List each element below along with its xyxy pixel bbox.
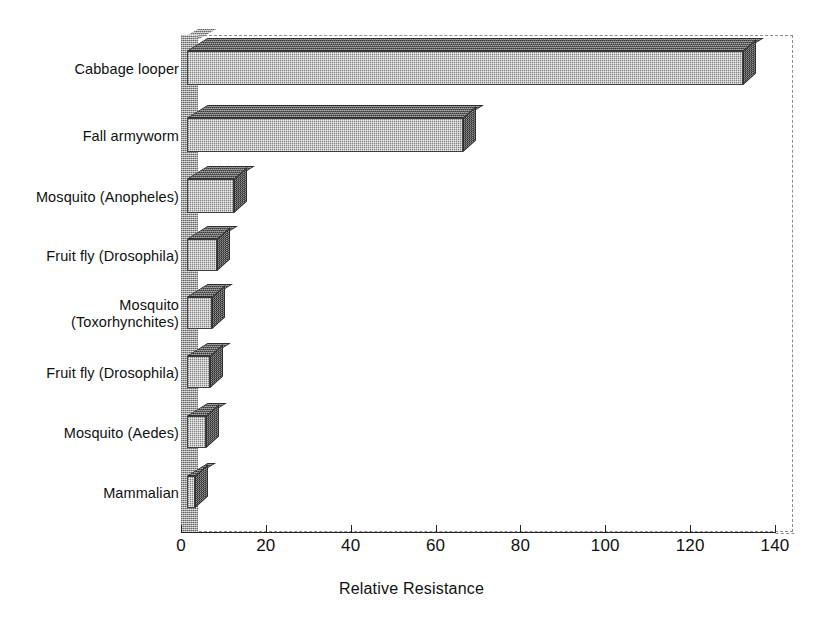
bar-7 <box>187 416 206 448</box>
x-tick-label-40: 40 <box>321 536 381 556</box>
bar-front-face <box>187 179 234 213</box>
x-tick-0 <box>181 525 182 533</box>
x-tick-label-20: 20 <box>236 536 296 556</box>
category-label-4: Fruit fly (Drosophila) <box>46 248 179 265</box>
x-tick-label-100: 100 <box>575 536 635 556</box>
category-axis-wall <box>181 35 198 532</box>
bar-front-face <box>187 416 206 448</box>
x-tick-40 <box>351 525 352 533</box>
bar-2 <box>187 118 463 152</box>
category-label-7: Mosquito (Aedes) <box>64 425 179 442</box>
x-tick-80 <box>520 525 521 533</box>
bar-front-face <box>187 476 195 508</box>
category-label-8: Mammalian <box>103 485 179 502</box>
category-label-5: Mosquito (Toxorhynchites) <box>71 297 179 331</box>
x-tick-label-140: 140 <box>745 536 805 556</box>
x-tick-100 <box>605 525 606 533</box>
bar-6 <box>187 356 210 388</box>
x-tick-label-120: 120 <box>660 536 720 556</box>
x-tick-20 <box>266 525 267 533</box>
category-label-3: Mosquito (Anopheles) <box>36 189 179 206</box>
x-tick-120 <box>690 525 691 533</box>
bar-front-face <box>187 239 217 271</box>
bar-8 <box>187 476 195 508</box>
category-label-1: Cabbage looper <box>74 61 179 78</box>
bar-front-face <box>187 297 212 329</box>
bar-5 <box>187 297 212 329</box>
x-tick-60 <box>436 525 437 533</box>
bar-1 <box>187 51 743 85</box>
bar-3 <box>187 179 234 213</box>
bar-chart: Cabbage looperFall armywormMosquito (Ano… <box>0 0 823 621</box>
x-tick-label-80: 80 <box>490 536 550 556</box>
category-label-6: Fruit fly (Drosophila) <box>46 365 179 382</box>
bar-top-face <box>187 38 764 51</box>
bar-4 <box>187 239 217 271</box>
bar-front-face <box>187 118 463 152</box>
bar-front-face <box>187 51 743 85</box>
x-axis-title: Relative Resistance <box>0 580 823 598</box>
x-axis-line <box>181 532 775 533</box>
x-tick-140 <box>775 525 776 533</box>
category-label-2: Fall armyworm <box>83 128 179 145</box>
bar-top-face <box>187 105 484 118</box>
bar-front-face <box>187 356 210 388</box>
x-tick-label-60: 60 <box>406 536 466 556</box>
x-tick-label-0: 0 <box>151 536 211 556</box>
